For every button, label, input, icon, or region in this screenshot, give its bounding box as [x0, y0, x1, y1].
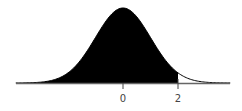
shaded-area — [16, 8, 178, 83]
tick-label-2: 2 — [175, 93, 181, 104]
tick-label-0: 0 — [120, 93, 126, 104]
